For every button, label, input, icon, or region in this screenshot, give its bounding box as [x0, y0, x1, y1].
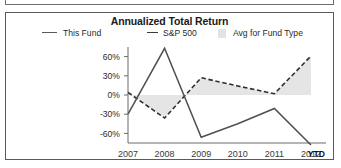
y-axis-tick-label: 0% [108, 90, 121, 100]
legend-label-this-fund: This Fund [63, 28, 101, 38]
x-axis-tick-label: 2011 [265, 149, 284, 159]
y-axis-tick-label: 30% [103, 71, 121, 81]
legend-label-avg-for-fund-type: Avg for Fund Type [233, 28, 303, 38]
dashed-line-swatch-icon [147, 32, 158, 33]
y-axis-tick-label: 60% [103, 52, 121, 62]
x-axis-tick-label: 2008 [155, 149, 175, 159]
filled-box-swatch-icon [218, 29, 226, 38]
line-chart-svg: -60%-30%0%30%60% 20072008200920102011201… [6, 39, 335, 159]
x-axis-tick-label: 2010 [228, 149, 248, 159]
x-axis-tick-label: 2007 [118, 149, 138, 159]
x-axis-ytd-label: YTD [308, 149, 325, 159]
legend-item-this-fund[interactable]: This Fund [42, 28, 101, 38]
chart-screenshot: Annualized Total Return This Fund S&P 50… [0, 0, 341, 168]
legend-label-sp500: S&P 500 [163, 28, 197, 38]
legend-item-sp500[interactable]: S&P 500 [147, 28, 197, 38]
plot-area: -60%-30%0%30%60% 20072008200920102011201… [6, 39, 335, 159]
y-axis-tick-labels: -60%-30%0%30%60% [100, 52, 120, 139]
x-axis-tick-label: 2009 [191, 149, 211, 159]
y-axis-tick-label: -60% [100, 129, 120, 139]
y-axis-tick-label: -30% [100, 109, 120, 119]
page-title: Annualized Total Return [6, 15, 333, 27]
top-panel-edge [5, 0, 334, 5]
legend-item-avg-for-fund-type[interactable]: Avg for Fund Type [218, 28, 303, 38]
annualized-total-return-card: Annualized Total Return This Fund S&P 50… [5, 12, 334, 160]
y-axis-ticks [124, 57, 128, 134]
x-axis-tick-labels: 200720082009201020112012YTD [118, 149, 325, 159]
solid-line-swatch-icon [42, 32, 57, 33]
